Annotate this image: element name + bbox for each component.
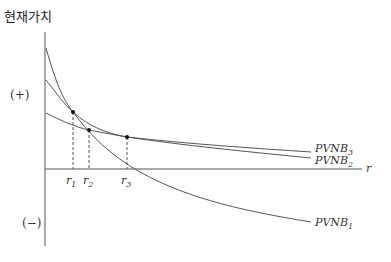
intersection-point-r2 <box>87 128 91 132</box>
pvnb1-label: PVNB1 <box>314 216 353 231</box>
intersection-point-r1 <box>71 110 75 114</box>
x-axis-label: r <box>366 162 372 175</box>
curve-pvnb1 <box>46 48 311 222</box>
curve-pvnb2 <box>46 80 311 158</box>
intersection-point-r3 <box>125 135 129 139</box>
curve-pvnb3 <box>46 113 311 152</box>
r3-label: r3 <box>121 174 131 189</box>
r2-label: r2 <box>83 174 93 189</box>
r1-label: r1 <box>66 174 76 189</box>
pvnb-diagram: r1 r2 r3 r PVNB3 PVNB2 PVNB1 <box>0 0 391 262</box>
pvnb2-label: PVNB2 <box>314 154 353 169</box>
